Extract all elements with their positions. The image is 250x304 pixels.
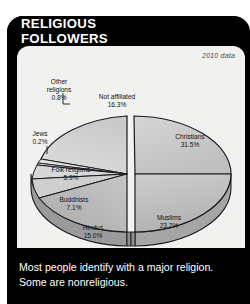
label-hindus-pct: 15.0% [69,232,117,240]
pie-chart: Other religions 0.8% Jews 0.2% Folk reli… [17,46,245,264]
label-other-religions: Other religions 0.8% [33,78,85,103]
label-muslims-pct: 23.2% [145,222,193,230]
label-other-religions-line1: Other [51,78,68,85]
label-jews: Jews 0.2% [21,130,59,146]
chart-panel: 2010 data [17,46,245,264]
label-folk-religions: Folk religions 5.9% [39,166,103,182]
caption-bar: Most people identify with a major religi… [7,248,250,304]
caption-line-1: Most people identify with a major religi… [7,248,250,274]
label-buddhists-pct: 7.1% [47,204,101,212]
label-christians-name: Christians [175,133,204,140]
label-folk-religions-name: Folk religions [52,166,91,173]
label-hindus: Hindus 15.0% [69,224,117,240]
page-title: RELIGIOUS FOLLOWERS [7,16,181,46]
infographic-card: RELIGIOUS FOLLOWERS 2010 data [7,16,250,304]
label-jews-name: Jews [32,130,47,137]
label-muslims: Muslims 23.2% [145,214,193,230]
label-not-affiliated: Not affiliated 16.3% [88,93,146,109]
label-not-affiliated-name: Not affiliated [99,93,136,100]
label-not-affiliated-pct: 16.3% [88,101,146,109]
label-muslims-name: Muslims [157,214,181,221]
title-tab: RELIGIOUS FOLLOWERS [7,16,181,46]
caption-line-2: Some are nonreligious. [7,274,250,289]
label-jews-pct: 0.2% [21,138,59,146]
label-buddhists-name: Buddhists [60,196,89,203]
label-other-religions-pct: 0.8% [33,94,85,102]
label-buddhists: Buddhists 7.1% [47,196,101,212]
label-hindus-name: Hindus [83,224,104,231]
label-christians-pct: 31.5% [163,141,217,149]
label-folk-religions-pct: 5.9% [39,174,103,182]
label-other-religions-line2: religions [47,86,72,93]
label-christians: Christians 31.5% [163,133,217,149]
